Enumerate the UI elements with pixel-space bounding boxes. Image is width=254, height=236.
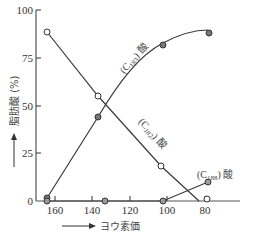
c188-point: [102, 198, 108, 204]
y-tick-50: 50: [22, 100, 34, 112]
c188-point: [44, 198, 50, 204]
c183-label: (C183) 酸: [117, 40, 152, 76]
series-c182-line: [47, 32, 199, 201]
x-tick-140: 140: [84, 204, 101, 216]
series-c188-line: [47, 182, 208, 201]
y-tick-100: 100: [17, 4, 34, 16]
x-ticks: 160 140 120 100 80: [47, 196, 211, 216]
series-c183-line: [47, 30, 208, 198]
x-tick-80: 80: [200, 204, 212, 216]
x-tick-120: 120: [122, 204, 139, 216]
series-c183: (C183) 酸: [44, 30, 212, 201]
c183-point: [206, 30, 212, 36]
y-tick-0: 0: [28, 195, 34, 207]
x-axis-title-group: ヨウ素価: [62, 220, 140, 232]
y-tick-75: 75: [22, 52, 34, 64]
x-arrowhead-icon: [89, 223, 96, 229]
x-tick-100: 100: [159, 204, 176, 216]
c182-label: (C182) 酸: [135, 115, 170, 151]
y-tick-25: 25: [22, 147, 34, 159]
c188-point: [160, 198, 166, 204]
x-axis-title: ヨウ素価: [100, 220, 140, 232]
x-tick-160: 160: [47, 204, 64, 216]
c182-point: [158, 163, 164, 169]
chart: 100 75 50 25 0 160 140 120 100 80 ヨウ素価 脂…: [0, 0, 254, 236]
series-c182: (C182) 酸: [44, 29, 210, 202]
c183-point: [160, 42, 166, 48]
c182-point: [44, 29, 50, 35]
c182-point: [95, 93, 101, 99]
y-axis-title: 脂肪酸 (%): [8, 75, 20, 126]
c188-label: (C188) 酸: [197, 168, 233, 182]
y-axis-title-group: 脂肪酸 (%): [8, 75, 20, 167]
y-ticks: 100 75 50 25 0: [17, 4, 42, 207]
c182-point: [204, 196, 210, 202]
y-arrowhead-icon: [11, 133, 17, 140]
c183-point: [95, 114, 101, 120]
